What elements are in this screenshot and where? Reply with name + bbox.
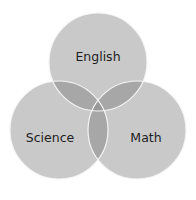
venn-diagram: English Science Math [0, 0, 196, 200]
label-math: Math [130, 130, 161, 145]
label-english: English [75, 49, 120, 64]
label-science: Science [26, 130, 75, 145]
